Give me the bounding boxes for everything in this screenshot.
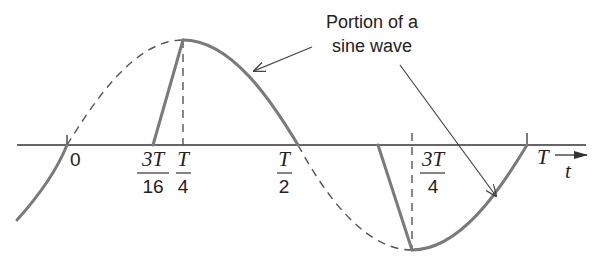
label-zero: 0 — [70, 149, 81, 170]
label-T-4: T 4 — [176, 147, 191, 197]
callout-line2: sine wave — [332, 36, 412, 56]
label-T-2: T 2 — [277, 147, 292, 197]
solid-sine-positive — [183, 40, 298, 145]
callout-arrow-negative — [400, 65, 496, 196]
svg-text:16: 16 — [142, 176, 163, 197]
label-3T-16: 3T 16 — [137, 147, 169, 197]
solid-waveform-leadin — [17, 145, 67, 220]
solid-ramp-fall — [378, 145, 412, 250]
callout-line1: Portion of a — [326, 12, 419, 32]
dashed-sine-first-rise — [67, 40, 183, 145]
svg-text:3T: 3T — [421, 147, 446, 171]
sine-wave-diagram: Portion of a sine wave 0 3T 16 T 4 T 2 3… — [0, 0, 605, 259]
svg-text:4: 4 — [428, 176, 439, 197]
svg-text:3T: 3T — [141, 147, 166, 171]
svg-text:4: 4 — [178, 176, 189, 197]
solid-ramp-rise — [153, 40, 183, 145]
callout-arrow-positive — [254, 47, 312, 71]
label-T: T — [537, 145, 550, 169]
svg-text:T: T — [278, 147, 291, 171]
svg-text:T: T — [177, 147, 190, 171]
svg-text:2: 2 — [279, 176, 290, 197]
axis-variable-t: t — [565, 159, 572, 183]
label-3T-4: 3T 4 — [420, 147, 445, 197]
